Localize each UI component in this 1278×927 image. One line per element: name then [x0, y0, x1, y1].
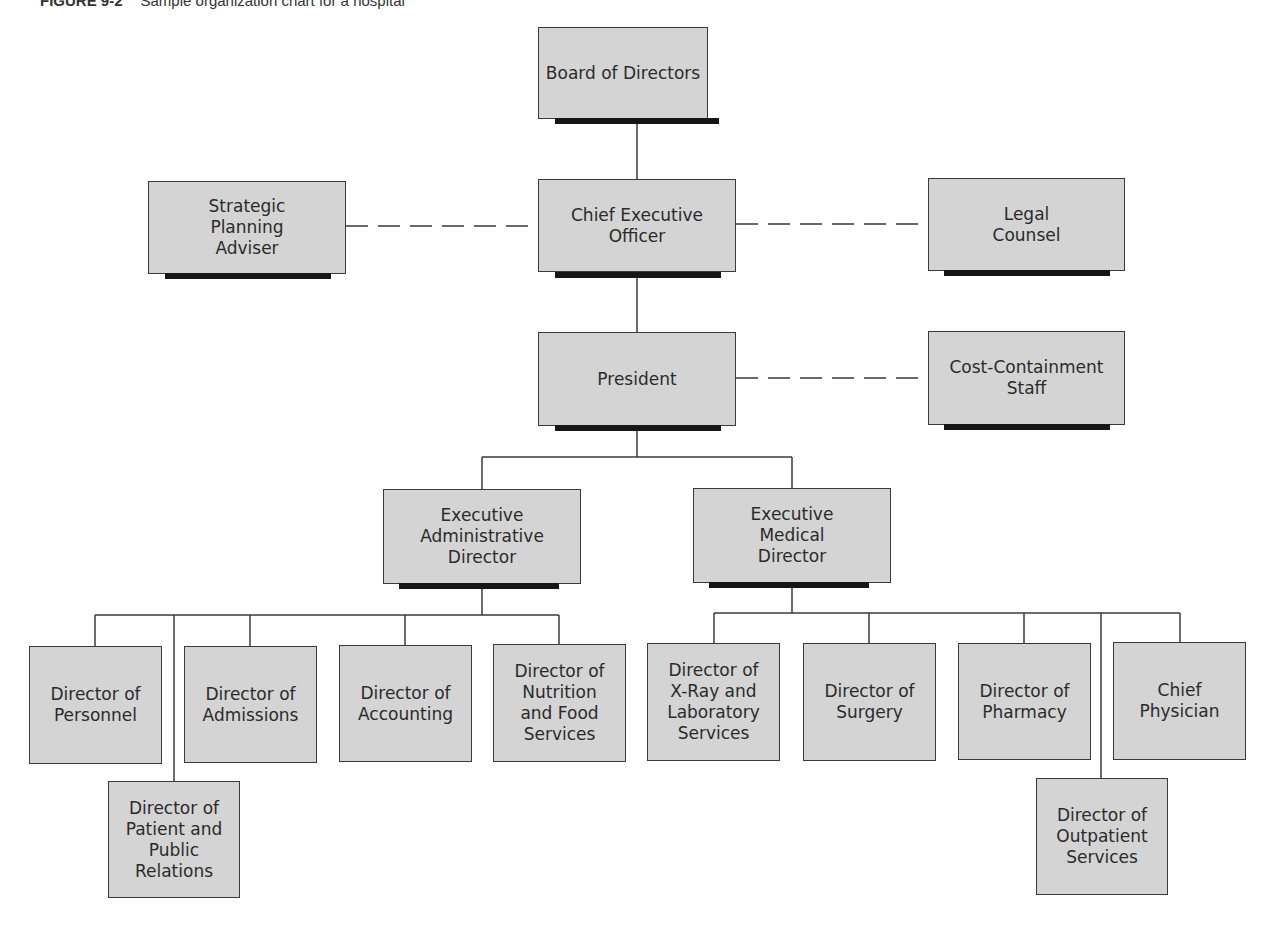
node-shadow — [399, 583, 559, 589]
node-label: Chief Physician — [1140, 680, 1220, 722]
node-label: Director of Personnel — [50, 684, 140, 726]
node-label: Director of Accounting — [358, 683, 453, 725]
node-cost-containment-staff: Cost-Containment Staff — [928, 331, 1125, 425]
node-label: Cost-Containment Staff — [949, 357, 1103, 399]
node-label: Director of Surgery — [824, 681, 914, 723]
node-director-of-pharmacy: Director of Pharmacy — [958, 643, 1091, 760]
node-label: Director of Patient and Public Relations — [126, 798, 223, 882]
node-strategic-planning-adviser: Strategic Planning Adviser — [148, 181, 346, 274]
node-board-of-directors: Board of Directors — [538, 27, 708, 119]
node-director-of-accounting: Director of Accounting — [339, 645, 472, 762]
node-shadow — [165, 273, 331, 279]
node-label: Executive Administrative Director — [420, 505, 544, 568]
node-director-of-xray-and-laboratory-services: Director of X-Ray and Laboratory Service… — [647, 643, 780, 761]
node-label: Director of Pharmacy — [979, 681, 1069, 723]
node-director-of-surgery: Director of Surgery — [803, 643, 936, 761]
node-director-of-patient-and-public-relations: Director of Patient and Public Relations — [108, 781, 240, 898]
node-legal-counsel: Legal Counsel — [928, 178, 1125, 271]
node-shadow — [555, 425, 721, 431]
node-label: Board of Directors — [546, 63, 700, 84]
node-label: Director of Nutrition and Food Services — [514, 661, 604, 745]
node-label: Chief Executive Officer — [571, 205, 703, 247]
node-chief-physician: Chief Physician — [1113, 642, 1246, 760]
node-president: President — [538, 332, 736, 426]
node-label: Strategic Planning Adviser — [209, 196, 286, 259]
node-label: Director of Admissions — [203, 684, 299, 726]
node-label: Director of Outpatient Services — [1056, 805, 1147, 868]
node-executive-administrative-director: Executive Administrative Director — [383, 489, 581, 584]
node-director-of-nutrition-and-food-services: Director of Nutrition and Food Services — [493, 644, 626, 762]
node-label: Legal Counsel — [993, 204, 1061, 246]
node-shadow — [555, 272, 721, 278]
node-label: Executive Medical Director — [751, 504, 834, 567]
node-director-of-admissions: Director of Admissions — [184, 646, 317, 763]
node-shadow — [709, 582, 869, 588]
node-director-of-outpatient-services: Director of Outpatient Services — [1036, 778, 1168, 895]
node-shadow — [555, 118, 719, 124]
node-shadow — [944, 270, 1110, 276]
node-chief-executive-officer: Chief Executive Officer — [538, 179, 736, 272]
node-executive-medical-director: Executive Medical Director — [693, 488, 891, 583]
node-label: Director of X-Ray and Laboratory Service… — [667, 660, 760, 744]
node-shadow — [944, 424, 1110, 430]
node-label: President — [597, 369, 676, 390]
node-director-of-personnel: Director of Personnel — [29, 646, 162, 764]
